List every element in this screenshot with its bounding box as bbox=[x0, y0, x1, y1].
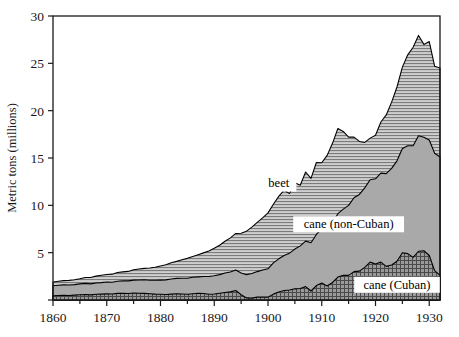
x-tick-label: 1870 bbox=[93, 310, 120, 325]
y-axis-ticks bbox=[48, 16, 53, 300]
series-annotation-label: beet bbox=[268, 176, 289, 190]
y-tick-label: 25 bbox=[31, 56, 45, 71]
stacked-area-chart: 18601870188018901900191019201930 5101520… bbox=[0, 0, 459, 337]
x-tick-label: 1880 bbox=[147, 310, 174, 325]
x-tick-label: 1920 bbox=[362, 310, 389, 325]
series-annotation-label: cane (Cuban) bbox=[364, 278, 431, 292]
y-tick-label: 5 bbox=[37, 246, 44, 261]
y-tick-label: 20 bbox=[31, 104, 45, 119]
plot-area: 18601870188018901900191019201930 5101520… bbox=[5, 9, 443, 325]
y-axis-tick-labels: 51015202530 bbox=[31, 9, 45, 261]
x-tick-label: 1910 bbox=[308, 310, 335, 325]
x-tick-label: 1930 bbox=[416, 310, 443, 325]
series-annotation-label: cane (non-Cuban) bbox=[304, 217, 394, 231]
y-tick-label: 30 bbox=[31, 9, 45, 24]
x-tick-label: 1860 bbox=[40, 310, 67, 325]
x-axis-ticks bbox=[53, 300, 429, 306]
series-layers bbox=[53, 35, 440, 300]
y-tick-label: 10 bbox=[31, 198, 45, 213]
x-tick-label: 1890 bbox=[201, 310, 228, 325]
x-tick-label: 1900 bbox=[255, 310, 282, 325]
x-axis-tick-labels: 18601870188018901900191019201930 bbox=[40, 310, 444, 325]
y-axis-title: Metric tons (millions) bbox=[5, 103, 19, 213]
y-tick-label: 15 bbox=[31, 151, 45, 166]
chart-figure: 18601870188018901900191019201930 5101520… bbox=[0, 0, 459, 337]
